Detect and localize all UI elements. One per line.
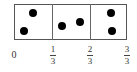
numerator: 2 — [88, 45, 93, 54]
point-1 — [29, 9, 37, 17]
label-three-thirds: 3 3 — [124, 45, 130, 66]
denominator: 3 — [125, 57, 130, 66]
numerator: 3 — [125, 45, 130, 54]
point-3 — [58, 22, 66, 30]
numerator: 1 — [51, 45, 56, 54]
point-2 — [20, 27, 28, 35]
denominator: 3 — [88, 57, 93, 66]
label-zero: 0 — [12, 50, 17, 60]
divider-one-third — [52, 4, 53, 40]
point-4 — [76, 18, 84, 26]
point-5 — [107, 9, 115, 17]
label-one-third: 1 3 — [50, 45, 56, 66]
label-two-thirds: 2 3 — [87, 45, 93, 66]
denominator: 3 — [51, 57, 56, 66]
point-6 — [108, 27, 116, 35]
divider-two-thirds — [90, 4, 91, 40]
